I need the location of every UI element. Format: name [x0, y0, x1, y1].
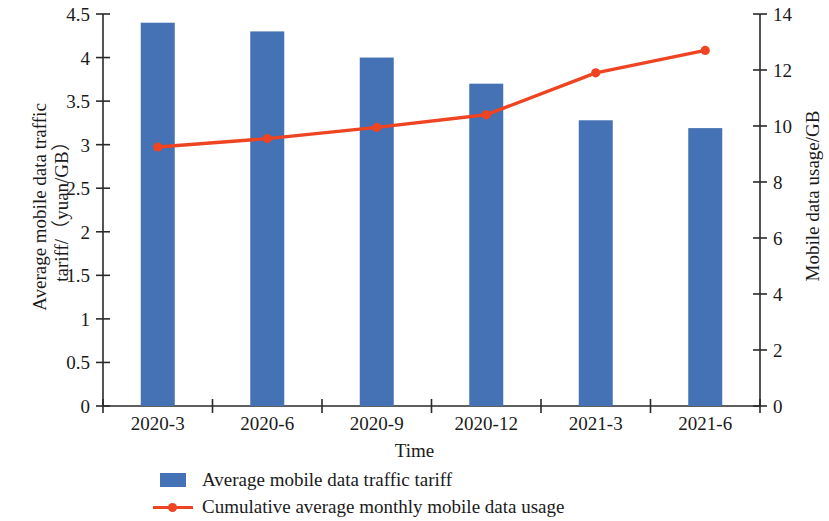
- line-path: [158, 50, 706, 147]
- line-marker: [701, 46, 710, 55]
- line-marker: [372, 123, 381, 132]
- bar: [360, 58, 394, 406]
- legend-item-bar: Average mobile data traffic tariff: [0, 466, 829, 493]
- bar: [688, 128, 722, 406]
- plot-area: [0, 0, 829, 521]
- legend-item-line: Cumulative average monthly mobile data u…: [0, 493, 829, 520]
- axes: [96, 14, 767, 413]
- bar: [250, 31, 284, 406]
- line-marker: [153, 142, 162, 151]
- line-marker: [263, 134, 272, 143]
- legend-label-line: Cumulative average monthly mobile data u…: [196, 497, 564, 516]
- line-marker: [482, 110, 491, 119]
- chart-legend: Average mobile data traffic tariff Cumul…: [0, 466, 829, 520]
- bar: [141, 23, 175, 406]
- chart-container: Average mobile data traffic tariff/（yuan…: [0, 0, 829, 521]
- bar: [579, 120, 613, 406]
- legend-label-bar: Average mobile data traffic tariff: [196, 470, 452, 489]
- bar: [469, 84, 503, 406]
- legend-bar-swatch-icon: [150, 473, 196, 487]
- legend-line-marker-icon: [150, 501, 196, 513]
- line-series: [153, 46, 710, 152]
- line-marker: [591, 68, 600, 77]
- bar-series: [141, 23, 723, 406]
